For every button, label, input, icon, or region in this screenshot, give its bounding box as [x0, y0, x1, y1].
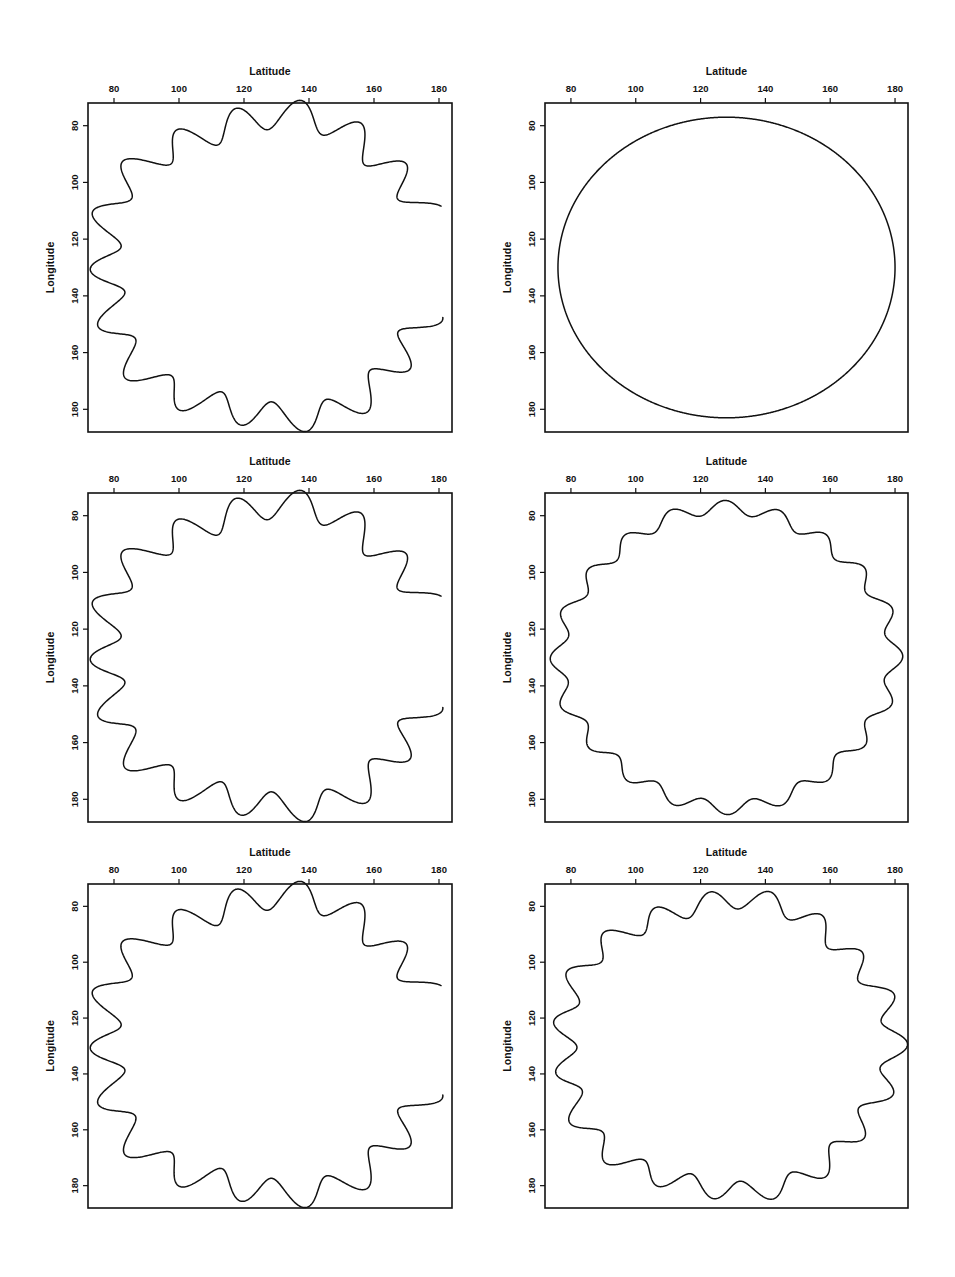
y-tick-label-120: 120: [69, 231, 80, 247]
x-tick-label-140: 140: [757, 83, 773, 94]
x-tick-label-100: 100: [628, 473, 644, 484]
x-axis-title: Latitude: [706, 455, 748, 467]
contour-curve: [554, 891, 908, 1199]
plot-panel-3: Latitude80100120140160180Longitude801001…: [42, 451, 460, 830]
contour-curve: [550, 500, 902, 814]
x-tick-label-180: 180: [431, 473, 447, 484]
contour-curve: [90, 1046, 443, 1208]
y-tick-label-160: 160: [526, 735, 537, 751]
x-axis-title: Latitude: [706, 65, 748, 77]
x-tick-label-140: 140: [301, 473, 317, 484]
x-tick-label-100: 100: [171, 83, 187, 94]
plot-panel-4: Latitude80100120140160180Longitude801001…: [499, 451, 916, 830]
figure-canvas: Latitude80100120140160180Longitude801001…: [0, 0, 955, 1277]
y-tick-label-180: 180: [69, 791, 80, 807]
x-tick-label-140: 140: [757, 864, 773, 875]
x-tick-label-120: 120: [693, 864, 709, 875]
y-tick-label-120: 120: [526, 231, 537, 247]
y-tick-label-160: 160: [69, 1122, 80, 1138]
y-tick-label-100: 100: [526, 954, 537, 970]
x-tick-label-180: 180: [887, 864, 903, 875]
y-tick-label-180: 180: [526, 791, 537, 807]
x-axis-title: Latitude: [249, 846, 291, 858]
y-tick-label-80: 80: [526, 510, 537, 521]
x-tick-label-80: 80: [109, 473, 120, 484]
y-axis-title: Longitude: [501, 1020, 513, 1072]
y-tick-label-140: 140: [69, 1066, 80, 1082]
y-tick-label-100: 100: [69, 174, 80, 190]
contour-curve: [91, 100, 441, 267]
contour-curve: [558, 117, 895, 418]
y-tick-label-100: 100: [526, 174, 537, 190]
y-tick-label-140: 140: [526, 678, 537, 694]
plot-frame: [545, 493, 908, 822]
x-axis-title: Latitude: [249, 455, 291, 467]
y-tick-label-120: 120: [526, 621, 537, 637]
y-tick-label-100: 100: [69, 954, 80, 970]
x-tick-label-100: 100: [628, 83, 644, 94]
y-tick-label-180: 180: [526, 1178, 537, 1194]
y-axis-title: Longitude: [44, 242, 56, 294]
plot-frame: [88, 493, 452, 822]
x-tick-label-80: 80: [109, 83, 120, 94]
x-tick-label-180: 180: [431, 864, 447, 875]
y-tick-label-180: 180: [69, 401, 80, 417]
x-tick-label-120: 120: [236, 864, 252, 875]
x-tick-label-80: 80: [566, 864, 577, 875]
x-tick-label-100: 100: [171, 473, 187, 484]
x-tick-label-140: 140: [757, 473, 773, 484]
y-tick-label-80: 80: [526, 120, 537, 131]
y-tick-label-120: 120: [69, 621, 80, 637]
x-tick-label-120: 120: [693, 83, 709, 94]
y-tick-label-120: 120: [69, 1010, 80, 1026]
y-tick-label-80: 80: [69, 120, 80, 131]
y-tick-label-160: 160: [69, 345, 80, 361]
y-tick-label-160: 160: [69, 735, 80, 751]
plot-panel-1: Latitude80100120140160180Longitude801001…: [42, 61, 460, 440]
x-tick-label-140: 140: [301, 864, 317, 875]
x-axis-title: Latitude: [249, 65, 291, 77]
contour-curve: [90, 268, 443, 432]
y-tick-label-140: 140: [69, 288, 80, 304]
plot-panel-6: Latitude80100120140160180Longitude801001…: [499, 842, 916, 1216]
y-axis-title: Longitude: [501, 632, 513, 684]
plot-frame: [545, 103, 908, 432]
y-tick-label-180: 180: [526, 401, 537, 417]
y-tick-label-100: 100: [69, 564, 80, 580]
x-tick-label-180: 180: [887, 473, 903, 484]
contour-curve: [91, 490, 441, 657]
y-tick-label-80: 80: [526, 901, 537, 912]
plot-panel-5: Latitude80100120140160180Longitude801001…: [42, 842, 460, 1216]
x-tick-label-160: 160: [366, 473, 382, 484]
y-axis-title: Longitude: [44, 1020, 56, 1072]
y-tick-label-180: 180: [69, 1178, 80, 1194]
y-tick-label-80: 80: [69, 901, 80, 912]
plot-panel-2: Latitude80100120140160180Longitude801001…: [499, 61, 916, 440]
y-tick-label-80: 80: [69, 510, 80, 521]
y-tick-label-140: 140: [526, 1066, 537, 1082]
y-tick-label-100: 100: [526, 564, 537, 580]
contour-curve: [90, 658, 443, 822]
x-tick-label-80: 80: [109, 864, 120, 875]
x-tick-label-80: 80: [566, 83, 577, 94]
y-tick-label-140: 140: [69, 678, 80, 694]
x-tick-label-140: 140: [301, 83, 317, 94]
plot-frame: [545, 884, 908, 1208]
x-axis-title: Latitude: [706, 846, 748, 858]
plot-frame: [88, 103, 452, 432]
x-tick-label-160: 160: [366, 864, 382, 875]
y-axis-title: Longitude: [501, 242, 513, 294]
plot-frame: [88, 884, 452, 1208]
x-tick-label-160: 160: [822, 473, 838, 484]
x-tick-label-160: 160: [822, 83, 838, 94]
x-tick-label-80: 80: [566, 473, 577, 484]
y-tick-label-120: 120: [526, 1010, 537, 1026]
x-tick-label-160: 160: [822, 864, 838, 875]
y-tick-label-140: 140: [526, 288, 537, 304]
y-tick-label-160: 160: [526, 1122, 537, 1138]
x-tick-label-160: 160: [366, 83, 382, 94]
y-axis-title: Longitude: [44, 632, 56, 684]
x-tick-label-120: 120: [693, 473, 709, 484]
x-tick-label-180: 180: [431, 83, 447, 94]
x-tick-label-100: 100: [171, 864, 187, 875]
